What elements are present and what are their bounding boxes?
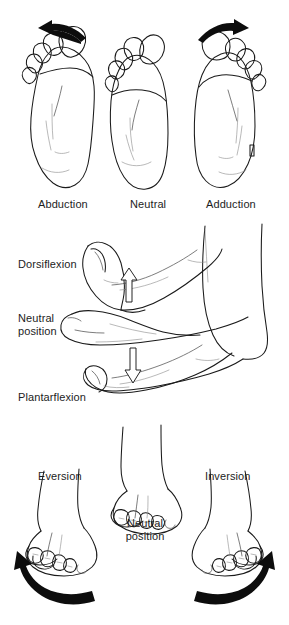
plantarflexion-arrow-icon [125, 348, 141, 383]
panel-sagittal-plane: Dorsiflexion Neutral position Plantarfle… [0, 218, 289, 423]
inversion-arrow-icon [194, 551, 275, 604]
foot-neutral-transverse [105, 35, 168, 189]
panel-transverse-plane: Abduction Neutral Adduction [0, 0, 289, 218]
label-plantarflexion: Plantarflexion [18, 391, 86, 404]
transverse-illustration [0, 0, 289, 218]
label-dorsiflexion: Dorsiflexion [18, 258, 77, 271]
foot-adduction [194, 31, 265, 187]
adduction-arrow-icon [198, 19, 249, 43]
eversion-arrow-icon [14, 551, 95, 604]
foot-range-of-motion-figure: Abduction Neutral Adduction [0, 0, 289, 625]
label-abduction: Abduction [38, 198, 88, 211]
panel-frontal-plane: Eversion Neutral position Inversion [0, 423, 289, 625]
foot-inversion [192, 469, 263, 576]
label-adduction: Adduction [206, 198, 256, 211]
label-neutral-position-sagittal: Neutral position [18, 312, 57, 337]
foot-plantarflexion [84, 345, 243, 393]
foot-neutral-sagittal [61, 311, 248, 345]
label-neutral-transverse: Neutral [130, 198, 166, 211]
abduction-arrow-icon [38, 20, 86, 44]
foot-dorsiflexion [83, 242, 222, 312]
foot-eversion [26, 469, 97, 576]
label-neutral-position-frontal: Neutral position [105, 517, 185, 542]
label-eversion: Eversion [38, 470, 82, 483]
foot-abduction [22, 27, 94, 188]
label-inversion: Inversion [205, 470, 251, 483]
lower-leg [203, 224, 268, 359]
